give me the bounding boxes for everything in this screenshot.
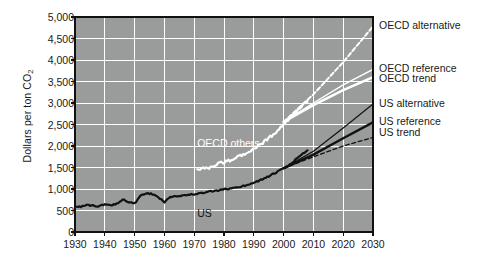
legend-label: OECD alternative xyxy=(379,19,461,31)
legend-label: US reference xyxy=(379,115,441,127)
legend-label: US trend xyxy=(379,126,420,138)
legend-label: OECD trend xyxy=(379,72,436,84)
chart-figure: Dollars per ton CO2 05001,0001,5002,0002… xyxy=(0,0,484,262)
legend-label: US alternative xyxy=(379,97,445,109)
chart-annotation: OECD others xyxy=(197,137,259,149)
chart-annotation: US xyxy=(197,207,212,219)
